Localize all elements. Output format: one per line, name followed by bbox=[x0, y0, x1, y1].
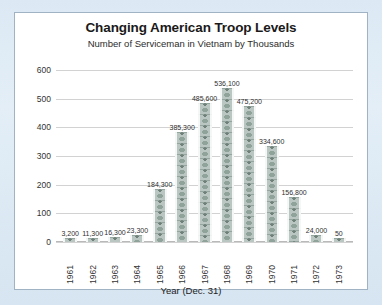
bar-value-label: 23,300 bbox=[127, 227, 148, 234]
y-axis-tick-label: 500 bbox=[18, 94, 51, 104]
bar[interactable]: 536,100 bbox=[220, 88, 234, 242]
x-axis-tick-label: 1969 bbox=[244, 244, 254, 284]
x-axis-tick-label: 1964 bbox=[132, 244, 142, 284]
y-axis-tick-label: 300 bbox=[18, 151, 51, 161]
x-axis-tick-slot: 1964 bbox=[126, 244, 148, 284]
chart-panel: Changing American Troop Levels Number of… bbox=[14, 12, 368, 290]
bar[interactable]: 184,300 bbox=[153, 189, 167, 242]
bar-slot: 24,000 bbox=[305, 70, 327, 242]
x-axis-tick-slot: 1961 bbox=[59, 244, 81, 284]
bar[interactable]: 50 bbox=[332, 238, 346, 242]
x-axis-tick-slot: 1963 bbox=[104, 244, 126, 284]
y-axis-tick-label: 200 bbox=[18, 180, 51, 190]
bar-value-label: 475,200 bbox=[237, 98, 262, 105]
bar[interactable]: 24,000 bbox=[309, 235, 323, 242]
x-axis-tick-label: 1973 bbox=[334, 244, 344, 284]
x-axis-tick-label: 1970 bbox=[267, 244, 277, 284]
bar-value-label: 334,600 bbox=[259, 138, 284, 145]
bar-value-label: 184,300 bbox=[147, 181, 172, 188]
x-axis-tick-slot: 1962 bbox=[81, 244, 103, 284]
x-axis-tick-slot: 1969 bbox=[238, 244, 260, 284]
bar-value-label: 24,000 bbox=[306, 227, 327, 234]
bar-value-label: 16,300 bbox=[104, 229, 125, 236]
chart-subtitle: Number of Serviceman in Vietnam by Thous… bbox=[15, 38, 367, 49]
x-axis-tick-label: 1962 bbox=[88, 244, 98, 284]
bar-slot: 11,300 bbox=[81, 70, 103, 242]
bar-slot: 485,600 bbox=[193, 70, 215, 242]
x-axis-tick-label: 1967 bbox=[200, 244, 210, 284]
plot-area: 3,20011,30016,30023,300184,300385,300485… bbox=[56, 70, 353, 242]
x-axis-tick-label: 1966 bbox=[177, 244, 187, 284]
bar-slot: 536,100 bbox=[216, 70, 238, 242]
bar-slot: 23,300 bbox=[126, 70, 148, 242]
bar-slot: 3,200 bbox=[59, 70, 81, 242]
bar-value-label: 156,800 bbox=[281, 189, 306, 196]
bar[interactable]: 3,200 bbox=[63, 238, 77, 242]
x-axis-tick-label: 1963 bbox=[110, 244, 120, 284]
bar[interactable]: 485,600 bbox=[198, 103, 212, 242]
bar-slot: 50 bbox=[328, 70, 350, 242]
bar-value-label: 536,100 bbox=[214, 80, 239, 87]
y-axis-tick-label: 100 bbox=[18, 208, 51, 218]
gridline bbox=[56, 242, 353, 243]
x-axis-tick-label: 1965 bbox=[155, 244, 165, 284]
x-axis-tick-slot: 1970 bbox=[261, 244, 283, 284]
x-axis-tick-slot: 1971 bbox=[283, 244, 305, 284]
x-axis-tick-slot: 1973 bbox=[328, 244, 350, 284]
bar-value-label: 485,600 bbox=[192, 95, 217, 102]
x-axis-tick-label: 1971 bbox=[289, 244, 299, 284]
x-axis-title: Year (Dec. 31) bbox=[15, 285, 367, 296]
y-axis-tick-label: 600 bbox=[18, 65, 51, 75]
bar[interactable]: 16,300 bbox=[108, 237, 122, 242]
x-axis-tick-slot: 1965 bbox=[149, 244, 171, 284]
bar-value-label: 11,300 bbox=[82, 230, 103, 237]
x-axis-tick-slot: 1972 bbox=[305, 244, 327, 284]
bar[interactable]: 23,300 bbox=[130, 235, 144, 242]
bar-slot: 334,600 bbox=[261, 70, 283, 242]
x-axis-ticks: 1961196219631964196519661967196819691970… bbox=[56, 244, 353, 284]
chart-title: Changing American Troop Levels bbox=[15, 20, 367, 35]
page-root: Changing American Troop Levels Number of… bbox=[0, 0, 382, 305]
bar-slot: 475,200 bbox=[238, 70, 260, 242]
bar[interactable]: 156,800 bbox=[287, 197, 301, 242]
y-axis-tick-label: 0 bbox=[18, 237, 51, 247]
x-axis-tick-label: 1961 bbox=[65, 244, 75, 284]
x-axis-tick-label: 1972 bbox=[311, 244, 321, 284]
bar-slot: 156,800 bbox=[283, 70, 305, 242]
bar[interactable]: 11,300 bbox=[86, 238, 100, 242]
bar-value-label: 50 bbox=[335, 230, 343, 237]
x-axis-tick-slot: 1966 bbox=[171, 244, 193, 284]
y-axis-tick-label: 400 bbox=[18, 122, 51, 132]
bar-slot: 385,300 bbox=[171, 70, 193, 242]
bar-value-label: 3,200 bbox=[61, 230, 79, 237]
bar-value-label: 385,300 bbox=[169, 124, 194, 131]
bar[interactable]: 334,600 bbox=[265, 146, 279, 242]
x-axis-tick-slot: 1967 bbox=[193, 244, 215, 284]
bar[interactable]: 475,200 bbox=[242, 106, 256, 242]
x-axis-tick-slot: 1968 bbox=[216, 244, 238, 284]
bar[interactable]: 385,300 bbox=[175, 132, 189, 242]
bar-slot: 184,300 bbox=[149, 70, 171, 242]
bar-slot: 16,300 bbox=[104, 70, 126, 242]
x-axis-tick-label: 1968 bbox=[222, 244, 232, 284]
bar-series: 3,20011,30016,30023,300184,300385,300485… bbox=[56, 70, 353, 242]
